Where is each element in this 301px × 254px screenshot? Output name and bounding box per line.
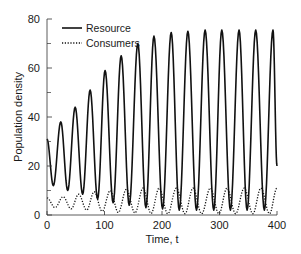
y-tick-label: 40 <box>28 111 40 123</box>
y-axis-label: Population density <box>12 72 24 162</box>
y-tick-label: 0 <box>34 209 40 221</box>
y-tick-label: 20 <box>28 160 40 172</box>
y-tick-label: 80 <box>28 13 40 25</box>
resource-line <box>47 30 277 210</box>
x-ticks: 0100200300400 <box>44 211 286 231</box>
x-tick-label: 100 <box>95 219 113 231</box>
x-tick-label: 300 <box>210 219 228 231</box>
legend: Resource Consumers <box>62 22 140 49</box>
plot-area <box>47 30 277 214</box>
x-tick-label: 0 <box>44 219 50 231</box>
legend-consumers-label: Consumers <box>86 37 140 49</box>
population-chart: 020406080 0100200300400 Time, t Populati… <box>0 0 301 254</box>
x-axis-label: Time, t <box>145 233 178 245</box>
legend-resource-label: Resource <box>86 22 131 34</box>
x-tick-label: 400 <box>268 219 286 231</box>
y-ticks: 020406080 <box>28 13 52 221</box>
y-tick-label: 60 <box>28 62 40 74</box>
x-tick-label: 200 <box>153 219 171 231</box>
